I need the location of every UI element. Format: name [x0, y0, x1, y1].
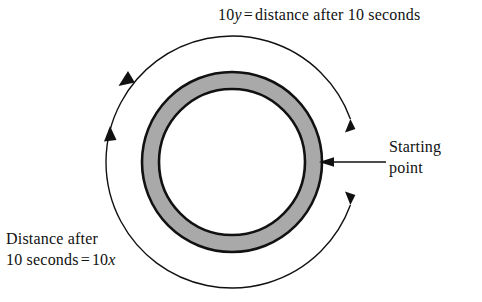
- label-bottom-equals: =: [79, 251, 92, 268]
- label-top-variable: 10y: [218, 6, 242, 23]
- label-top-text: distance after 10 seconds: [255, 6, 420, 23]
- label-top-equals: =: [242, 6, 255, 23]
- label-bottom-line2: 10 seconds=10x: [6, 249, 116, 270]
- circular-track-annulus: [142, 72, 322, 252]
- label-distance-after-10-seconds-y: 10y=distance after 10 seconds: [218, 4, 420, 25]
- label-start-line1: Starting: [389, 136, 441, 157]
- label-bottom-prefix: 10 seconds: [6, 251, 79, 268]
- track-inner-edge: [159, 89, 305, 235]
- label-bottom-line1: Distance after: [6, 228, 116, 249]
- label-starting-point: Starting point: [389, 136, 441, 178]
- label-start-line2: point: [389, 157, 441, 178]
- diagram-canvas: 10y=distance after 10 seconds Distance a…: [0, 0, 482, 302]
- label-distance-after-10-seconds-x: Distance after 10 seconds=10x: [6, 228, 116, 270]
- starting-point-leader: [319, 157, 386, 167]
- path-arrow-upper-right: [345, 119, 355, 133]
- path-arrow-lower-right: [345, 191, 355, 205]
- label-bottom-value: 10x: [92, 251, 116, 268]
- ccw-arrow-left: [104, 126, 117, 142]
